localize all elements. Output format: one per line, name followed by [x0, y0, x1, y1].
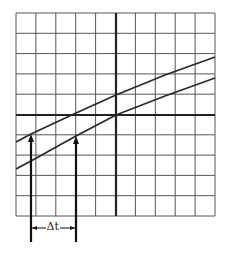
graticule-diagram	[0, 0, 229, 255]
arrowhead-right-icon	[70, 226, 75, 230]
arrowhead-left-icon	[32, 226, 37, 230]
delta-t-label: Δt	[46, 221, 60, 233]
